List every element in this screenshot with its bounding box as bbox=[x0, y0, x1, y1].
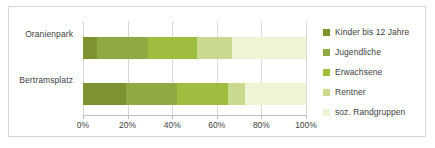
chart-frame: 0%20%40%60%80%100% Oranienpark Bertramsp… bbox=[8, 6, 426, 137]
legend-item[interactable]: Erwachsene bbox=[323, 63, 427, 81]
legend-item[interactable]: soz. Randgruppen bbox=[323, 103, 427, 121]
axis-tick bbox=[128, 115, 129, 119]
legend-swatch-icon bbox=[323, 109, 330, 116]
x-axis-line bbox=[83, 115, 307, 116]
x-tick-label: 0% bbox=[63, 120, 103, 130]
legend-item[interactable]: Kinder bis 12 Jahre bbox=[323, 23, 427, 41]
legend-item[interactable]: Rentner bbox=[323, 83, 427, 101]
x-tick-label: 80% bbox=[241, 120, 281, 130]
legend-swatch-icon bbox=[323, 89, 330, 96]
x-tick-label: 100% bbox=[286, 120, 326, 130]
axis-tick bbox=[261, 115, 262, 119]
x-tick-label: 60% bbox=[197, 120, 237, 130]
legend-swatch-icon bbox=[323, 29, 330, 36]
x-tick-label: 40% bbox=[152, 120, 192, 130]
category-label-bertramsplatz: Bertramsplatz bbox=[0, 75, 73, 85]
axis-tick bbox=[306, 115, 307, 119]
bar-segment[interactable] bbox=[83, 83, 126, 105]
bar-row[interactable] bbox=[83, 37, 306, 59]
legend-label: Kinder bis 12 Jahre bbox=[335, 27, 409, 37]
category-label-oranienpark: Oranienpark bbox=[0, 29, 73, 39]
bar-segment[interactable] bbox=[148, 37, 197, 59]
chart-legend: Kinder bis 12 JahreJugendlicheErwachsene… bbox=[323, 23, 427, 123]
legend-swatch-icon bbox=[323, 49, 330, 56]
legend-swatch-icon bbox=[323, 69, 330, 76]
axis-tick bbox=[172, 115, 173, 119]
axis-tick bbox=[83, 115, 84, 119]
legend-label: Erwachsene bbox=[335, 67, 382, 77]
legend-label: soz. Randgruppen bbox=[335, 107, 405, 117]
bar-segment[interactable] bbox=[97, 37, 147, 59]
bar-segment[interactable] bbox=[228, 83, 245, 105]
axis-tick bbox=[217, 115, 218, 119]
bar-segment[interactable] bbox=[232, 37, 306, 59]
bar-segment[interactable] bbox=[177, 83, 228, 105]
legend-item[interactable]: Jugendliche bbox=[323, 43, 427, 61]
x-tick-label: 20% bbox=[108, 120, 148, 130]
bar-segment[interactable] bbox=[126, 83, 176, 105]
gridline bbox=[306, 21, 307, 115]
bar-row[interactable] bbox=[83, 83, 306, 105]
bar-segment[interactable] bbox=[197, 37, 233, 59]
bar-segment[interactable] bbox=[83, 37, 97, 59]
legend-label: Jugendliche bbox=[335, 47, 381, 57]
bar-segment[interactable] bbox=[245, 83, 306, 105]
legend-label: Rentner bbox=[335, 87, 366, 97]
plot-area bbox=[83, 21, 306, 115]
